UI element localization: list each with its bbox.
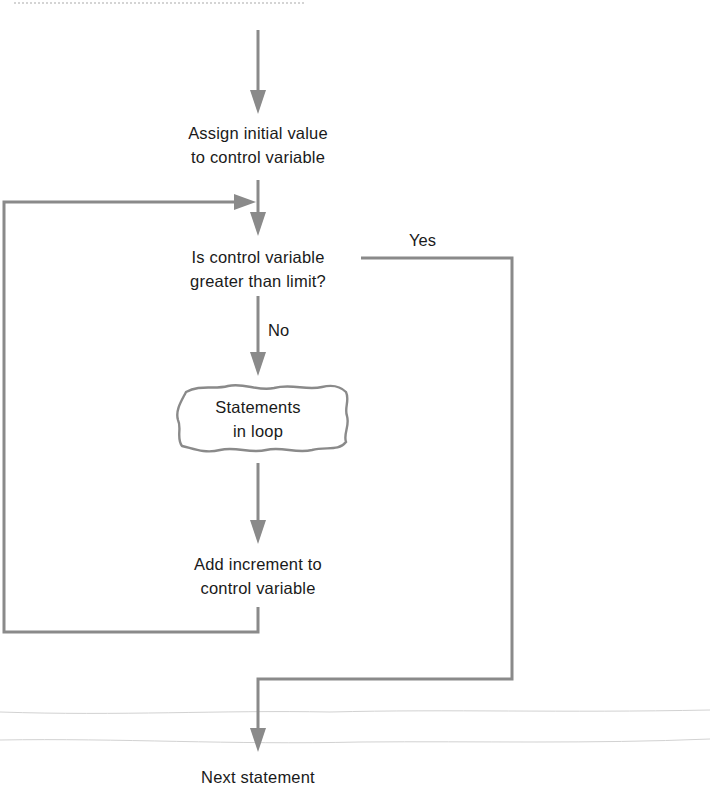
assign-line-1: Assign initial value bbox=[158, 121, 358, 145]
assign-initial-value-node: Assign initial value to control variable bbox=[158, 121, 358, 169]
arrowhead-icon bbox=[250, 212, 266, 236]
yes-branch-line bbox=[258, 258, 512, 730]
add-increment-node: Add increment to control variable bbox=[158, 552, 358, 600]
next-statement-node: Next statement bbox=[158, 765, 358, 787]
assign-line-2: to control variable bbox=[158, 145, 358, 169]
body-line-2: in loop bbox=[178, 419, 338, 443]
statements-in-loop-node: Statements in loop bbox=[178, 395, 338, 443]
body-line-1: Statements bbox=[178, 395, 338, 419]
arrowhead-icon bbox=[250, 90, 266, 114]
increment-line-2: control variable bbox=[158, 576, 358, 600]
arrowhead-icon bbox=[250, 520, 266, 544]
no-label: No bbox=[268, 320, 289, 340]
limit-test-node: Is control variable greater than limit? bbox=[158, 245, 358, 293]
flowchart-diagram bbox=[0, 0, 710, 787]
test-line-2: greater than limit? bbox=[158, 269, 358, 293]
next-line-1: Next statement bbox=[158, 765, 358, 787]
yes-label: Yes bbox=[409, 230, 436, 250]
test-line-1: Is control variable bbox=[158, 245, 358, 269]
paper-crease bbox=[0, 710, 710, 743]
arrowhead-icon bbox=[250, 728, 266, 752]
arrowhead-icon bbox=[250, 352, 266, 376]
increment-line-1: Add increment to bbox=[158, 552, 358, 576]
arrowhead-icon bbox=[234, 194, 256, 210]
